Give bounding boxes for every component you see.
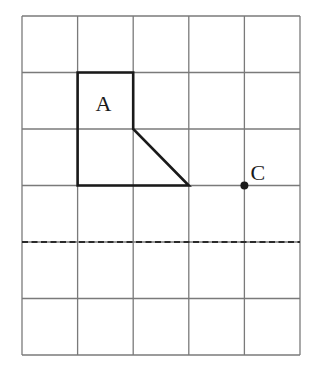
point-c-dot [240, 182, 248, 190]
point-c-label: C [250, 160, 265, 185]
shape-a-label: A [96, 91, 112, 116]
grid-diagram: A C [0, 0, 314, 384]
